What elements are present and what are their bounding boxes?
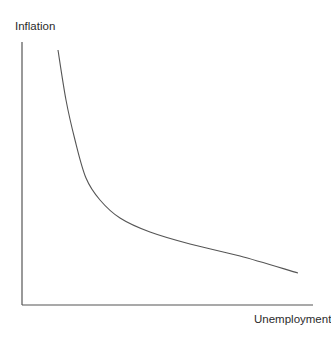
x-axis-label: Unemployment (254, 313, 331, 325)
phillips-curve-figure: Inflation Unemployment (0, 0, 331, 339)
y-axis-label: Inflation (15, 20, 55, 32)
chart-canvas (0, 0, 331, 339)
phillips-curve-line (58, 50, 298, 273)
